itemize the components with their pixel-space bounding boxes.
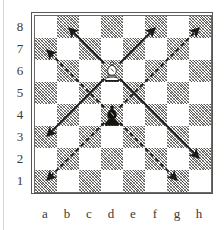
- file-label-row: a b c d e f g h: [34, 203, 210, 223]
- file-label-c: c: [78, 203, 100, 223]
- rank-label-3: 3: [10, 125, 30, 147]
- file-label-a: a: [34, 203, 56, 223]
- rank-label-6: 6: [10, 59, 30, 81]
- rank-label-1: 1: [10, 169, 30, 191]
- file-label-d: d: [100, 203, 122, 223]
- chess-board-frame: [31, 12, 213, 194]
- board-pieces: [35, 16, 211, 192]
- black-bishop-piece[interactable]: [101, 104, 123, 126]
- file-label-b: b: [56, 203, 78, 223]
- rank-label-4: 4: [10, 103, 30, 125]
- rank-label-2: 2: [10, 147, 30, 169]
- chess-diagram: 8 7 6 5 4 3 2 1 a b c d e f g h: [0, 0, 224, 230]
- file-label-g: g: [166, 203, 188, 223]
- rank-label-7: 7: [10, 37, 30, 59]
- white-bishop-piece[interactable]: [101, 60, 123, 82]
- rank-label-8: 8: [10, 15, 30, 37]
- rank-label-5: 5: [10, 81, 30, 103]
- file-label-h: h: [188, 203, 210, 223]
- rank-label-column: 8 7 6 5 4 3 2 1: [10, 15, 30, 191]
- chess-board: [34, 15, 212, 193]
- file-label-e: e: [122, 203, 144, 223]
- file-label-f: f: [144, 203, 166, 223]
